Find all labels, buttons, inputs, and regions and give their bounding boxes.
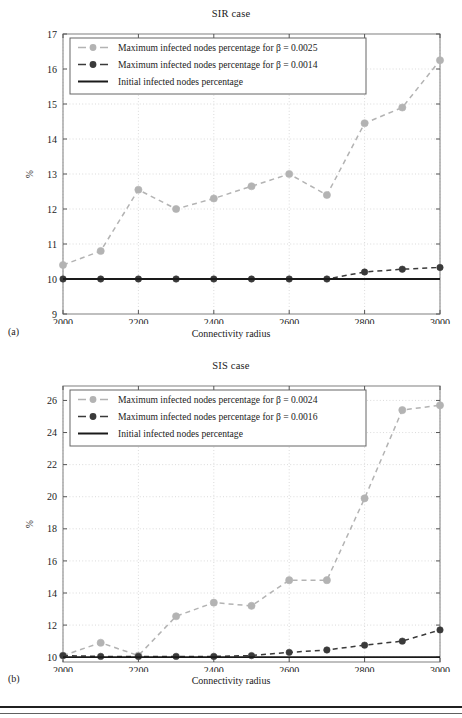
legend: Maximum infected nodes percentage for β … xyxy=(70,390,366,446)
legend-label: Initial infected nodes percentage xyxy=(118,428,243,439)
y-axis-label: % xyxy=(25,520,35,528)
legend-label: Maximum infected nodes percentage for β … xyxy=(118,42,318,53)
page-footer-rule-secondary xyxy=(0,713,462,714)
chart-title-a: SIR case xyxy=(0,8,462,24)
legend-label: Initial infected nodes percentage xyxy=(118,76,243,87)
data-point xyxy=(361,495,368,502)
x-tick-label: 2400 xyxy=(204,665,224,672)
data-point xyxy=(59,261,66,268)
subfigure-label-a: (a) xyxy=(8,326,19,337)
data-point xyxy=(97,639,104,646)
x-tick-label: 2200 xyxy=(128,665,148,672)
data-point xyxy=(135,186,142,193)
y-tick-label: 10 xyxy=(47,274,57,285)
y-tick-label: 10 xyxy=(47,652,57,663)
figure-panel-a: SIR case 2000220024002600280030009101112… xyxy=(0,8,462,353)
x-tick-label: 3000 xyxy=(430,665,450,672)
y-tick-label: 15 xyxy=(47,99,57,110)
data-point xyxy=(323,577,330,584)
y-tick-label: 12 xyxy=(47,620,57,631)
chart-title-b: SIS case xyxy=(0,360,462,376)
data-point xyxy=(437,627,443,633)
x-tick-label: 2600 xyxy=(279,665,299,672)
data-point xyxy=(361,269,367,275)
y-tick-label: 16 xyxy=(47,556,57,567)
y-tick-label: 14 xyxy=(47,134,57,145)
x-tick-label: 2600 xyxy=(279,317,299,324)
data-point xyxy=(399,104,406,111)
x-axis-label-a: Connectivity radius xyxy=(0,328,462,339)
subfigure-label-b: (b) xyxy=(8,673,20,684)
chart-svg-a: 2000220024002600280030009101112131415161… xyxy=(0,24,462,324)
data-point xyxy=(286,170,293,177)
data-point xyxy=(248,602,255,609)
y-tick-label: 12 xyxy=(47,204,57,215)
data-point xyxy=(323,191,330,198)
legend-marker-point xyxy=(90,396,97,403)
y-tick-label: 13 xyxy=(47,169,57,180)
y-tick-label: 9 xyxy=(52,309,57,320)
y-tick-label: 24 xyxy=(47,427,57,438)
y-tick-label: 17 xyxy=(47,29,57,40)
y-axis-label: % xyxy=(25,170,35,178)
data-point xyxy=(399,638,405,644)
x-tick-label: 3000 xyxy=(430,317,450,324)
page-footer-rule xyxy=(0,706,462,708)
data-point xyxy=(173,205,180,212)
data-point xyxy=(248,183,255,190)
y-tick-label: 22 xyxy=(47,459,57,470)
legend-marker-point xyxy=(90,44,97,51)
legend-label: Maximum infected nodes percentage for β … xyxy=(118,59,318,70)
data-point xyxy=(437,264,443,270)
legend: Maximum infected nodes percentage for β … xyxy=(70,38,366,94)
data-point xyxy=(210,195,217,202)
x-tick-label: 2800 xyxy=(355,317,375,324)
x-tick-label: 2000 xyxy=(53,665,73,672)
y-tick-label: 20 xyxy=(47,491,57,502)
y-tick-label: 18 xyxy=(47,523,57,534)
y-tick-label: 14 xyxy=(47,588,57,599)
data-point xyxy=(286,649,292,655)
chart-svg-b: 2000220024002600280030001012141618202224… xyxy=(0,376,462,672)
plot-area-b: 2000220024002600280030001012141618202224… xyxy=(0,376,462,672)
x-tick-label: 2400 xyxy=(204,317,224,324)
x-tick-label: 2800 xyxy=(355,665,375,672)
legend-marker-point xyxy=(90,413,97,420)
data-point xyxy=(436,57,443,64)
data-point xyxy=(399,266,405,272)
data-point xyxy=(97,247,104,254)
figure-page: SIR case 2000220024002600280030009101112… xyxy=(0,0,462,718)
data-point xyxy=(286,577,293,584)
data-point xyxy=(173,613,180,620)
data-point xyxy=(210,599,217,606)
data-point xyxy=(399,406,406,413)
data-point xyxy=(361,120,368,127)
y-tick-label: 11 xyxy=(47,239,57,250)
data-point xyxy=(436,402,443,409)
data-point xyxy=(324,647,330,653)
plot-area-a: 2000220024002600280030009101112131415161… xyxy=(0,24,462,324)
legend-marker-point xyxy=(90,61,97,68)
legend-label: Maximum infected nodes percentage for β … xyxy=(118,394,318,405)
y-tick-label: 16 xyxy=(47,64,57,75)
y-tick-label: 26 xyxy=(47,395,57,406)
data-point xyxy=(361,642,367,648)
x-axis-label-b: Connectivity radius xyxy=(0,675,462,686)
legend-label: Maximum infected nodes percentage for β … xyxy=(118,411,318,422)
figure-panel-b: SIS case 2000220024002600280030001012141… xyxy=(0,360,462,700)
x-tick-label: 2200 xyxy=(128,317,148,324)
